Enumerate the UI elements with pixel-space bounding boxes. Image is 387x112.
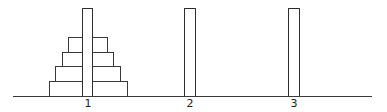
peg-label-3: 3 <box>284 98 304 110</box>
peg-label-1: 1 <box>78 98 98 110</box>
peg-3 <box>288 8 300 96</box>
tower-of-hanoi-diagram: 1 2 3 <box>0 0 387 112</box>
peg-2 <box>184 8 196 96</box>
peg-1 <box>82 8 93 96</box>
peg-label-2: 2 <box>180 98 200 110</box>
